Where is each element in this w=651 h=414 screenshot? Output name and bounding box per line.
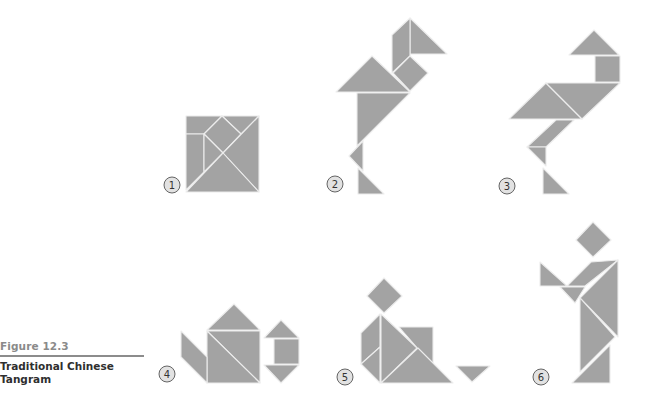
badge-5: 5 [337,369,353,385]
caption-divider [0,355,144,357]
tangram-piece [527,147,546,166]
panel-1-square: 1 [164,116,259,193]
tangram-piece [543,168,569,194]
badge-label: 4 [164,369,170,380]
tangram-piece [540,262,567,286]
tangram-piece [349,141,363,171]
tangram-piece [357,93,410,146]
figure-title: Traditional Chinese Tangram [0,360,130,386]
tangram-piece [358,168,384,194]
badge-1: 1 [164,177,180,193]
tangram-piece [527,120,574,147]
figure-caption: Figure 12.3 Traditional Chinese Tangram [0,340,146,386]
badge-2: 2 [327,176,343,192]
tangram-piece [367,278,402,313]
badge-label: 6 [538,372,544,383]
panel-4-teapot: 4 [159,304,299,383]
panel-5-seated-figure: 5 [337,278,490,385]
tangram-piece [569,30,619,55]
badge-4: 4 [159,366,175,382]
tangram-piece [264,365,299,383]
panel-2-bird: 2 [327,18,447,194]
tangram-piece [456,366,490,382]
tangram-piece [595,56,620,82]
badge-label: 1 [169,180,175,191]
panel-3-bird: 3 [499,30,620,194]
tangram-piece [207,304,260,330]
tangram-piece [181,331,207,383]
panel-6-standing-figure: 6 [533,222,618,385]
tangram-piece [274,339,299,364]
tangram-piece [264,320,299,338]
figure-number: Figure 12.3 [0,340,146,352]
badge-label: 2 [332,179,338,190]
tangram-piece [410,18,447,54]
badge-label: 3 [504,181,510,192]
badge-label: 5 [342,372,348,383]
badge-6: 6 [533,369,549,385]
tangram-piece [576,222,611,257]
badge-3: 3 [499,178,515,194]
